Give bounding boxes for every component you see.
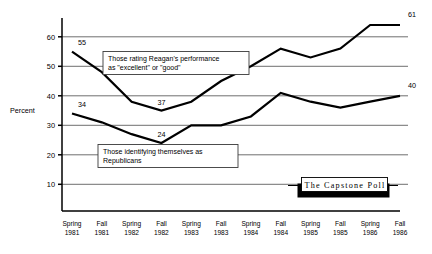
y-tick-labels: 60 50 40 30 20 10 [47,33,55,190]
x-tick-season-0: Spring [62,220,81,228]
x-tick-year-5: 1983 [214,229,229,236]
x-tick-year-9: 1985 [333,229,348,236]
x-tick-season-8: Spring [301,220,320,228]
x-tick-year-3: 1982 [154,229,169,236]
x-tick-year-0: 1981 [65,229,80,236]
chart-figure: 60 50 40 30 20 10 Percent 553761342440 T… [0,0,432,254]
reagan-approval-callout-line1: Those rating Reagan's performance [108,55,220,63]
x-tick-year-8: 1985 [303,229,318,236]
reagan-approval-callout: Those rating Reagan's performance as "ex… [103,52,249,75]
point-label-0-3: 37 [157,98,165,107]
line-chart-svg: 60 50 40 30 20 10 Percent 553761342440 T… [0,0,432,254]
y-tick-label-60: 60 [47,33,55,42]
capstone-poll-logo: The Capstone Poll [288,178,398,198]
series-republican-id-line [72,93,400,143]
point-label-0-0: 55 [78,38,86,47]
y-tick-label-50: 50 [47,62,55,71]
x-tick-season-9: Fall [335,220,346,227]
x-tick-season-11: Fall [395,220,406,227]
x-tick-year-2: 1982 [124,229,139,236]
x-tick-labels: Spring1981Fall1981Spring1982Fall1982Spri… [62,220,407,236]
republican-id-callout-line2: Republicans [103,157,142,165]
x-tick-year-10: 1986 [363,229,378,236]
logo-label: The Capstone Poll [305,181,386,190]
x-tick-season-2: Spring [122,220,141,228]
x-tick-year-1: 1981 [94,229,109,236]
x-tick-season-6: Spring [241,220,260,228]
y-axis-title: Percent [10,106,35,115]
x-tick-year-4: 1983 [184,229,199,236]
x-tick-season-10: Spring [361,220,380,228]
point-label-1-11: 40 [408,81,416,90]
y-tick-label-30: 30 [47,121,55,130]
point-label-1-3: 24 [157,130,165,139]
x-tick-season-7: Fall [275,220,286,227]
x-tick-season-5: Fall [216,220,227,227]
y-tick-label-10: 10 [47,180,55,189]
x-tick-year-6: 1984 [244,229,259,236]
x-tick-season-1: Fall [97,220,108,227]
republican-id-callout: Those identifying themselves as Republic… [98,145,238,168]
x-tick-year-7: 1984 [273,229,288,236]
x-tick-season-3: Fall [156,220,167,227]
point-label-1-0: 34 [78,100,86,109]
y-tick-label-20: 20 [47,151,55,160]
x-tick-season-4: Spring [182,220,201,228]
x-tick-year-11: 1986 [393,229,408,236]
point-label-0-11: 61 [408,10,416,19]
reagan-approval-callout-line2: as "excellent" or "good" [108,64,181,72]
y-tick-label-40: 40 [47,92,55,101]
republican-id-callout-line1: Those identifying themselves as [103,148,203,156]
